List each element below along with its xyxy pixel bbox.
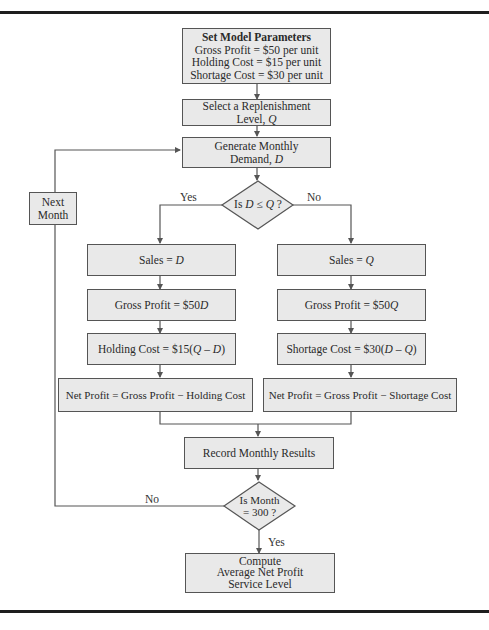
generate-d-prefix: Demand, bbox=[230, 153, 275, 165]
sales-d-text: Sales = D bbox=[139, 254, 184, 267]
shortage-cost-box: Shortage Cost = $30(D – Q) bbox=[277, 333, 426, 365]
decision-month-text: Is Month = 300 ? bbox=[224, 494, 295, 518]
dq-yes-label: Yes bbox=[180, 191, 197, 203]
net-profit-shortage-box: Net Profit = Gross Profit − Shortage Cos… bbox=[263, 378, 457, 412]
var-d: D bbox=[385, 343, 393, 355]
generate-demand-box: Generate Monthly Demand, D bbox=[182, 137, 331, 168]
var-d: D bbox=[176, 254, 184, 266]
sales-q-prefix: Sales = bbox=[329, 254, 366, 266]
shortage-suffix: ) bbox=[413, 343, 417, 355]
generate-d-line1: Generate Monthly bbox=[215, 140, 299, 153]
month-no-label: No bbox=[145, 493, 159, 505]
holding-cost-param: Holding Cost = $15 per unit bbox=[192, 56, 321, 69]
compute-line3: Service Level bbox=[228, 579, 292, 591]
compute-results-box: Compute Average Net Profit Service Level bbox=[185, 553, 335, 593]
var-q: Q bbox=[266, 198, 274, 210]
month-yes-label: Yes bbox=[268, 536, 285, 548]
shortage-op: – bbox=[393, 343, 405, 355]
select-q-line2: Level, Q bbox=[236, 113, 276, 126]
gross-profit-param: Gross Profit = $50 per unit bbox=[195, 44, 319, 57]
net-right-text: Net Profit = Gross Profit − Shortage Cos… bbox=[269, 389, 452, 402]
next-month-line1: Next bbox=[42, 196, 64, 209]
holding-suffix: ) bbox=[221, 343, 225, 355]
holding-cost-box: Holding Cost = $15(Q – D) bbox=[87, 333, 236, 365]
dq-prefix: Is bbox=[234, 198, 245, 210]
var-d: D bbox=[213, 343, 221, 355]
sales-q-box: Sales = Q bbox=[277, 244, 426, 276]
sales-d-prefix: Sales = bbox=[139, 254, 176, 266]
net-left-text: Net Profit = Gross Profit − Holding Cost bbox=[66, 389, 246, 402]
net-profit-holding-box: Net Profit = Gross Profit − Holding Cost bbox=[58, 378, 253, 412]
select-q-prefix: Level, bbox=[236, 113, 268, 125]
dq-op: ≤ bbox=[254, 198, 266, 210]
var-d: D bbox=[245, 198, 253, 210]
generate-d-line2: Demand, D bbox=[230, 153, 283, 166]
shortage-text: Shortage Cost = $30(D – Q) bbox=[286, 343, 416, 356]
select-q-line1: Select a Replenishment bbox=[203, 100, 311, 113]
dq-no-label: No bbox=[307, 191, 321, 203]
sales-d-box: Sales = D bbox=[87, 244, 236, 276]
set-params-title: Set Model Parameters bbox=[202, 31, 311, 44]
dq-suffix: ? bbox=[274, 198, 282, 210]
record-text: Record Monthly Results bbox=[203, 447, 315, 460]
set-model-parameters-box: Set Model Parameters Gross Profit = $50 … bbox=[182, 28, 331, 84]
record-results-box: Record Monthly Results bbox=[184, 437, 334, 469]
holding-text: Holding Cost = $15(Q – D) bbox=[98, 343, 225, 356]
decision-d-le-q-text: Is D ≤ Q ? bbox=[222, 198, 294, 211]
var-d: D bbox=[275, 153, 283, 165]
var-q: Q bbox=[268, 113, 276, 125]
var-q: Q bbox=[404, 343, 412, 355]
sales-q-text: Sales = Q bbox=[329, 254, 374, 267]
gp-d-prefix: Gross Profit = $50 bbox=[115, 299, 200, 311]
var-d: D bbox=[200, 299, 208, 311]
gross-profit-d-box: Gross Profit = $50D bbox=[87, 289, 236, 321]
next-month-box: Next Month bbox=[29, 192, 77, 225]
select-replenishment-box: Select a Replenishment Level, Q bbox=[182, 99, 331, 126]
var-q: Q bbox=[366, 254, 374, 266]
var-q: Q bbox=[390, 299, 398, 311]
gross-profit-q-box: Gross Profit = $50Q bbox=[277, 289, 426, 321]
shortage-prefix: Shortage Cost = $30( bbox=[286, 343, 384, 355]
shortage-cost-param: Shortage Cost = $30 per unit bbox=[190, 69, 323, 82]
gp-q-text: Gross Profit = $50Q bbox=[305, 299, 399, 312]
month-line1: Is Month bbox=[224, 494, 295, 506]
gp-d-text: Gross Profit = $50D bbox=[115, 299, 209, 312]
gp-q-prefix: Gross Profit = $50 bbox=[305, 299, 390, 311]
next-month-line2: Month bbox=[38, 209, 69, 222]
holding-op: – bbox=[201, 343, 213, 355]
holding-prefix: Holding Cost = $15( bbox=[98, 343, 193, 355]
month-line2: = 300 ? bbox=[224, 506, 295, 518]
